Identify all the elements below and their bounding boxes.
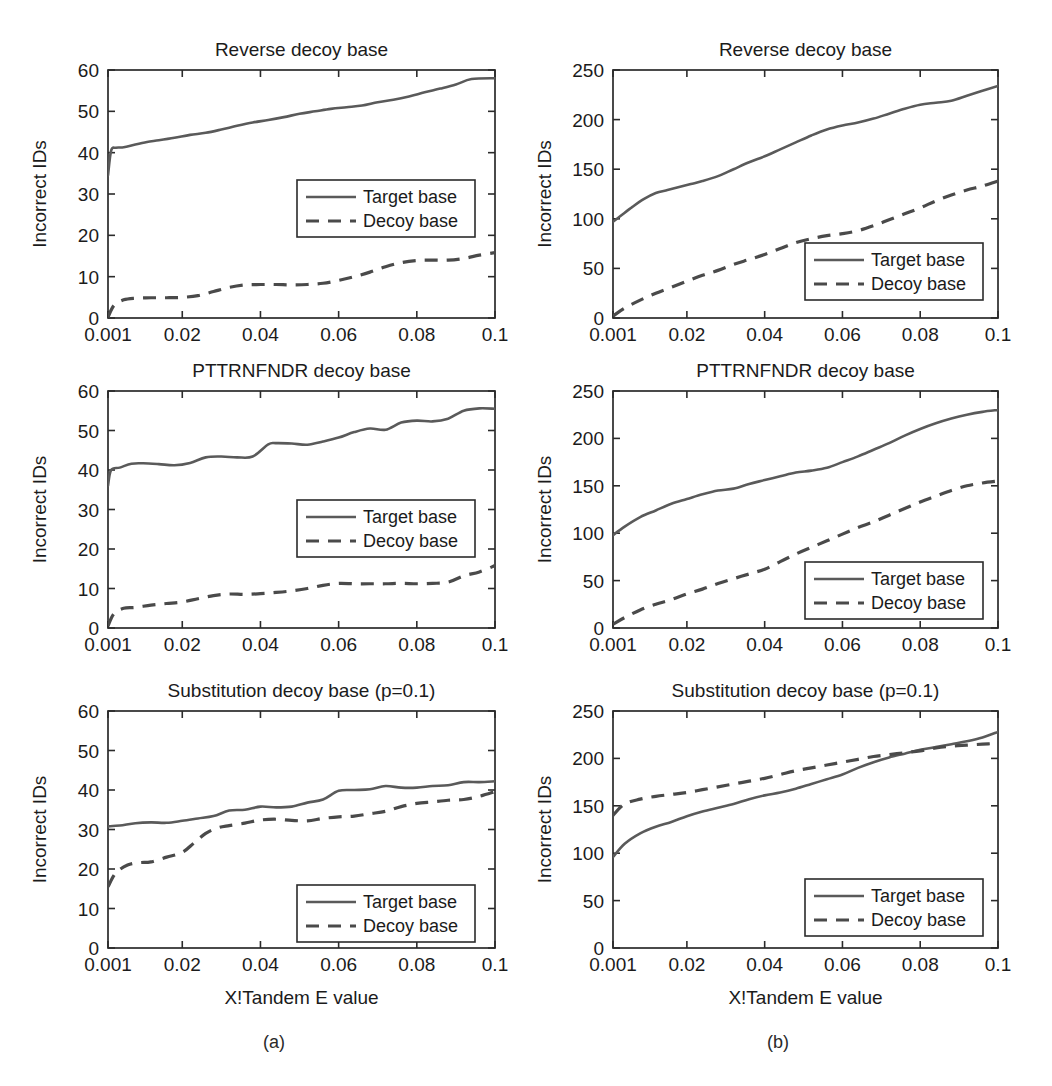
chart-panel-b-top: Reverse decoy base0.0010.020.040.060.080… xyxy=(534,39,1011,345)
series-decoy-base xyxy=(613,743,998,815)
subfigure-caption: (b) xyxy=(767,1032,789,1052)
y-tick-label: 30 xyxy=(78,184,99,205)
x-tick-label: 0.1 xyxy=(985,954,1011,975)
series-target-base xyxy=(613,86,998,222)
panel-title: Substitution decoy base (p=0.1) xyxy=(168,680,436,701)
y-tick-label: 100 xyxy=(572,843,604,864)
x-tick-label: 0.02 xyxy=(164,954,201,975)
legend-label-decoy-base: Decoy base xyxy=(363,211,458,231)
x-tick-label: 0.08 xyxy=(398,634,435,655)
y-tick-label: 250 xyxy=(572,60,604,81)
y-tick-label: 30 xyxy=(78,820,99,841)
subfigure-caption: (a) xyxy=(263,1032,285,1052)
y-tick-label: 10 xyxy=(78,267,99,288)
y-axis-label: Incorrect IDs xyxy=(29,456,50,564)
panel-title: PTTRNFNDR decoy base xyxy=(192,360,411,381)
legend: Target baseDecoy base xyxy=(805,879,983,936)
series-target-base xyxy=(613,732,998,857)
legend: Target baseDecoy base xyxy=(297,885,475,942)
y-tick-label: 10 xyxy=(78,579,99,600)
legend: Target baseDecoy base xyxy=(805,562,983,619)
y-tick-label: 50 xyxy=(78,741,99,762)
panel-title: Reverse decoy base xyxy=(719,39,892,60)
y-tick-label: 50 xyxy=(583,258,604,279)
x-tick-label: 0.06 xyxy=(824,324,861,345)
x-tick-label: 0.06 xyxy=(824,634,861,655)
y-tick-label: 150 xyxy=(572,159,604,180)
series-target-base xyxy=(108,781,495,826)
y-tick-label: 150 xyxy=(572,796,604,817)
x-tick-label: 0.04 xyxy=(746,634,783,655)
y-tick-label: 20 xyxy=(78,859,99,880)
y-tick-label: 50 xyxy=(78,421,99,442)
legend-label-target-base: Target base xyxy=(363,187,457,207)
series-target-base xyxy=(613,410,998,535)
x-tick-label: 0.1 xyxy=(985,324,1011,345)
y-tick-label: 20 xyxy=(78,225,99,246)
y-tick-label: 60 xyxy=(78,381,99,402)
y-tick-label: 200 xyxy=(572,748,604,769)
series-target-base xyxy=(108,408,495,486)
x-tick-label: 0.04 xyxy=(746,954,783,975)
x-tick-label: 0.02 xyxy=(164,324,201,345)
chart-panel-b-mid: PTTRNFNDR decoy base0.0010.020.040.060.0… xyxy=(534,360,1011,655)
figure-container: Reverse decoy base0.0010.020.040.060.080… xyxy=(0,0,1052,1086)
y-tick-label: 50 xyxy=(583,571,604,592)
y-tick-label: 0 xyxy=(88,308,99,329)
legend: Target baseDecoy base xyxy=(805,243,983,300)
x-tick-label: 0.04 xyxy=(242,324,279,345)
x-tick-label: 0.04 xyxy=(242,634,279,655)
x-tick-label: 0.1 xyxy=(985,634,1011,655)
y-tick-label: 50 xyxy=(583,891,604,912)
y-axis-label: Incorrect IDs xyxy=(534,776,555,884)
y-tick-label: 50 xyxy=(78,101,99,122)
panel-title: Substitution decoy base (p=0.1) xyxy=(672,680,940,701)
x-tick-label: 0.08 xyxy=(902,324,939,345)
chart-panel-a-bot: Substitution decoy base (p=0.1)0.0010.02… xyxy=(29,680,508,1008)
legend-label-decoy-base: Decoy base xyxy=(871,274,966,294)
y-axis-label: Incorrect IDs xyxy=(534,140,555,248)
y-tick-label: 0 xyxy=(593,938,604,959)
y-tick-label: 10 xyxy=(78,899,99,920)
y-tick-label: 0 xyxy=(88,938,99,959)
x-tick-label: 0.04 xyxy=(242,954,279,975)
y-tick-label: 60 xyxy=(78,60,99,81)
x-tick-label: 0.1 xyxy=(482,324,508,345)
x-tick-label: 0.08 xyxy=(902,634,939,655)
x-tick-label: 0.06 xyxy=(824,954,861,975)
x-tick-label: 0.04 xyxy=(746,324,783,345)
legend: Target baseDecoy base xyxy=(297,180,475,237)
y-tick-label: 100 xyxy=(572,209,604,230)
x-tick-label: 0.02 xyxy=(668,324,705,345)
y-tick-label: 0 xyxy=(593,308,604,329)
legend-label-decoy-base: Decoy base xyxy=(363,531,458,551)
y-tick-label: 100 xyxy=(572,523,604,544)
legend-label-target-base: Target base xyxy=(363,507,457,527)
x-tick-label: 0.02 xyxy=(164,634,201,655)
series-target-base xyxy=(108,78,495,175)
y-axis-label: Incorrect IDs xyxy=(29,776,50,884)
legend-label-target-base: Target base xyxy=(871,886,965,906)
y-tick-label: 40 xyxy=(78,143,99,164)
x-tick-label: 0.02 xyxy=(668,954,705,975)
x-axis-label: X!Tandem E value xyxy=(728,987,882,1008)
legend-label-decoy-base: Decoy base xyxy=(363,916,458,936)
y-tick-label: 200 xyxy=(572,428,604,449)
x-tick-label: 0.06 xyxy=(320,954,357,975)
y-tick-label: 0 xyxy=(593,618,604,639)
x-tick-label: 0.02 xyxy=(668,634,705,655)
x-tick-label: 0.06 xyxy=(320,634,357,655)
x-axis-label: X!Tandem E value xyxy=(224,987,378,1008)
x-tick-label: 0.08 xyxy=(398,954,435,975)
y-tick-label: 40 xyxy=(78,460,99,481)
legend-label-target-base: Target base xyxy=(871,250,965,270)
multi-panel-line-chart: Reverse decoy base0.0010.020.040.060.080… xyxy=(0,0,1052,1086)
y-tick-label: 250 xyxy=(572,701,604,722)
legend-label-decoy-base: Decoy base xyxy=(871,593,966,613)
legend-label-target-base: Target base xyxy=(363,892,457,912)
series-decoy-base xyxy=(108,566,495,626)
panel-title: Reverse decoy base xyxy=(215,39,388,60)
series-decoy-base xyxy=(108,792,495,887)
series-decoy-base xyxy=(108,253,495,317)
chart-panel-b-bot: Substitution decoy base (p=0.1)0.0010.02… xyxy=(534,680,1011,1008)
